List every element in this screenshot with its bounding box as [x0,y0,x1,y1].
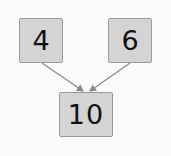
arrow-4-to-10 [42,63,83,91]
node-label: 6 [121,27,138,54]
node-label: 10 [68,101,104,128]
node-addend-6: 6 [108,18,152,63]
node-addend-4: 4 [19,18,63,63]
node-sum-10: 10 [59,92,113,137]
arrow-6-to-10 [90,63,130,91]
node-label: 4 [32,27,49,54]
